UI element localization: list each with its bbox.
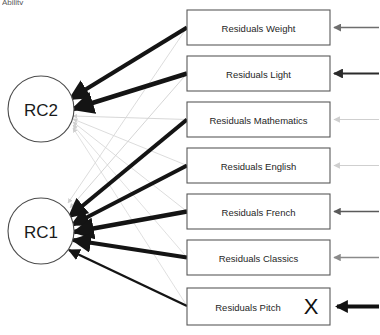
rc1-label: RC1 [24, 223, 58, 242]
loading-rc2-classics [73, 125, 187, 258]
loading-rc2-english [73, 119, 187, 166]
latent-factor-rc1[interactable]: RC1 [8, 198, 74, 264]
weight-label: Residuals Weight [222, 23, 296, 34]
manifest-box-weight[interactable]: Residuals Weight [187, 10, 330, 45]
manifest-box-light[interactable]: Residuals Light [187, 56, 330, 91]
loading-rc2-weight [70, 28, 187, 100]
manifest-box-pitch[interactable]: Residuals Pitch X [187, 288, 330, 325]
manifest-box-english[interactable]: Residuals English [187, 148, 330, 183]
light-label: Residuals Light [226, 69, 291, 80]
manifest-box-french[interactable]: Residuals French [187, 194, 330, 229]
manifest-box-mathematics[interactable]: Residuals Mathematics [187, 102, 330, 137]
rc2-label: RC2 [24, 101, 58, 120]
english-label: Residuals English [221, 161, 297, 172]
manifest-box-classics[interactable]: Residuals Classics [187, 240, 330, 275]
pitch-label: Residuals Pitch [215, 302, 280, 313]
classics-label: Residuals Classics [219, 253, 299, 264]
loading-rc2-light [73, 74, 187, 110]
mathematics-label: Residuals Mathematics [209, 115, 307, 126]
loading-rc2-mathematics [73, 116, 187, 120]
latent-factor-rc2[interactable]: RC2 [8, 76, 74, 142]
loading-rc1-classics [73, 240, 187, 258]
pitch-x-icon: X [304, 294, 319, 319]
french-label: Residuals French [222, 207, 296, 218]
loading-rc1-mathematics [69, 120, 187, 218]
residual-arrow-group [334, 28, 379, 307]
path-diagram-svg: RC2 RC1 Residuals Weight Residuals Light… [0, 0, 380, 335]
primary-loading-group [69, 28, 187, 307]
factor-diagram-canvas: Ability [0, 0, 380, 335]
